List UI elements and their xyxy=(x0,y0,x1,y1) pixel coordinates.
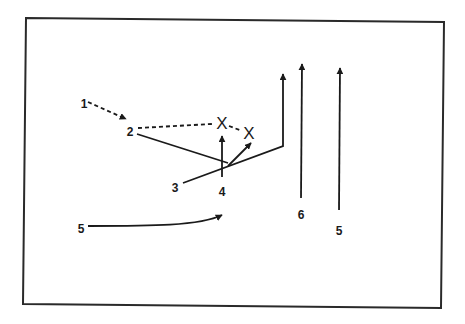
player-label-p1: 1 xyxy=(81,97,88,111)
player-label-p3: 3 xyxy=(172,181,179,195)
p2-dashed-pass-path xyxy=(138,124,212,128)
defender-x-icon: X xyxy=(216,114,227,133)
defender-dashed-link-path xyxy=(229,126,242,131)
players-layer: 1234565 xyxy=(78,97,343,238)
player-label-p5-left: 5 xyxy=(78,222,85,236)
diagram-frame xyxy=(23,18,444,308)
play-diagram: XX 1234565 xyxy=(0,0,465,324)
routes-layer xyxy=(88,64,340,226)
player-label-p5-right: 5 xyxy=(336,224,343,238)
p5-right-route-path xyxy=(339,68,340,210)
p6-route-path xyxy=(301,64,302,198)
p3-route-path xyxy=(183,74,283,183)
player-label-p6: 6 xyxy=(298,208,305,222)
player-label-p2: 2 xyxy=(127,125,134,139)
defender-x-icon: X xyxy=(243,124,254,143)
p5-left-curve-path xyxy=(88,215,222,226)
p1-dashed-move-path xyxy=(88,102,126,119)
player-label-p4: 4 xyxy=(219,185,226,199)
p2-cut-path xyxy=(137,134,228,163)
